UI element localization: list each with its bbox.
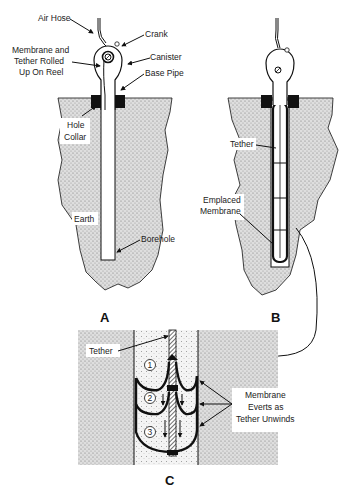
label-everts-line1: Membrane xyxy=(245,390,286,400)
label-tether-c: Tether xyxy=(89,346,113,356)
label-hole-collar-line1: Hole xyxy=(67,120,85,130)
label-everts-line3: Tether Unwinds xyxy=(236,414,295,424)
stage-1: 1 xyxy=(148,360,153,370)
stage-2: 2 xyxy=(148,393,153,403)
label-air-hose: Air Hose xyxy=(38,13,71,23)
panel-label-b: B xyxy=(271,310,280,325)
label-emplaced-line1: Emplaced xyxy=(203,195,241,205)
panel-a: Air Hose Crank Canister Base Pipe Membra… xyxy=(12,13,184,325)
panel-label-c: C xyxy=(165,473,175,488)
panel-c: 1 2 3 Tether Membrane Everts as Tether U… xyxy=(78,330,306,488)
label-hole-collar-line2: Collar xyxy=(64,132,86,142)
stage-3: 3 xyxy=(148,427,153,437)
label-membrane-line2: Tether Rolled xyxy=(14,56,64,66)
panel-b: Tether Emplaced Membrane B xyxy=(200,18,338,356)
crank-icon xyxy=(115,42,119,46)
borehole-a xyxy=(101,100,115,260)
panel-label-a: A xyxy=(100,310,110,325)
label-everts-line2: Everts as xyxy=(248,402,283,412)
label-base-pipe: Base Pipe xyxy=(145,68,184,78)
label-tether-b: Tether xyxy=(230,139,254,149)
label-crank: Crank xyxy=(145,29,168,39)
borehole-membrane-diagram: Air Hose Crank Canister Base Pipe Membra… xyxy=(0,0,354,493)
hole-collar-a xyxy=(91,95,102,108)
label-canister: Canister xyxy=(150,52,182,62)
label-membrane-line3: Up On Reel xyxy=(19,67,64,77)
label-emplaced-line2: Membrane xyxy=(200,206,241,216)
label-borehole: Borehole xyxy=(141,234,175,244)
label-earth: Earth xyxy=(74,214,95,224)
label-membrane-line1: Membrane and xyxy=(12,45,69,55)
